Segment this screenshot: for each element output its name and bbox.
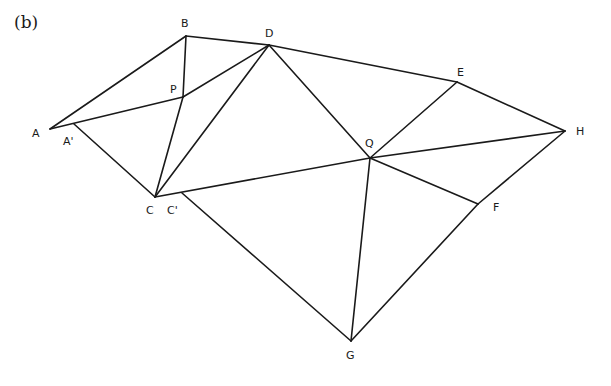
vertex-label-p: P	[170, 83, 177, 96]
edge-q-g	[351, 158, 370, 341]
panel-label: (b)	[14, 12, 38, 32]
edge-c-q	[155, 158, 370, 197]
edge-b-p	[183, 36, 186, 97]
edge-q-h	[370, 131, 565, 158]
edge-q-f	[370, 158, 478, 204]
edge-a-p	[50, 97, 183, 129]
vertex-labels-group: AA'BDPCC'EHQFG	[32, 17, 584, 362]
vertex-label-f: F	[493, 201, 499, 214]
vertex-label-c: C	[146, 204, 154, 217]
edge-a-b	[50, 36, 186, 129]
vertex-label-g: G	[346, 349, 355, 362]
edges-group	[50, 36, 565, 341]
edge-d-c	[155, 45, 269, 197]
vertex-label-c1: C'	[167, 204, 178, 217]
vertex-label-d: D	[265, 27, 273, 40]
vertex-label-a: A	[32, 127, 40, 140]
vertex-label-a1: A'	[63, 135, 74, 148]
edge-p-d	[183, 45, 269, 97]
vertex-label-e: E	[457, 66, 464, 79]
edge-a1-c	[74, 124, 155, 197]
edge-c1-g	[182, 193, 351, 341]
triangulation-diagram: (b) AA'BDPCC'EHQFG	[0, 0, 611, 386]
edge-b-d	[186, 36, 269, 45]
edge-q-e	[370, 82, 457, 158]
vertex-label-q: Q	[365, 137, 374, 150]
edge-e-h	[457, 82, 565, 131]
vertex-label-h: H	[576, 125, 584, 138]
edge-f-g	[351, 204, 478, 341]
vertex-label-b: B	[181, 17, 189, 30]
edge-p-c	[155, 97, 183, 197]
